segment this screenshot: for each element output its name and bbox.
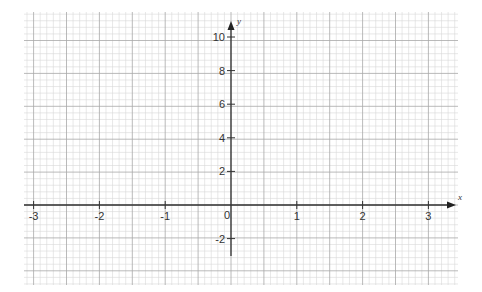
y-tick-label: 6 [219,98,225,110]
origin-label: 0 [224,209,230,221]
axes: x y [24,16,462,256]
minor-grid [24,12,458,285]
major-grid [24,12,458,285]
x-tick-label: -2 [95,210,105,222]
x-tick-label: 1 [294,210,300,222]
x-tick-label: 3 [425,210,431,222]
y-axis-name: y [236,16,241,26]
graph-paper-plot: x y -3-2-1123 -2246810 0 [0,0,482,292]
y-tick-label: 4 [219,132,225,144]
y-tick-label: 10 [213,31,225,43]
y-tick-label: -2 [215,233,225,245]
x-tick-label: -1 [160,210,170,222]
y-tick-label: 8 [219,65,225,77]
y-tick-label: 2 [219,165,225,177]
x-tick-label: -3 [29,210,39,222]
x-axis-name: x [457,192,462,202]
y-axis-arrow-icon [228,21,235,30]
x-tick-label: 2 [360,210,366,222]
